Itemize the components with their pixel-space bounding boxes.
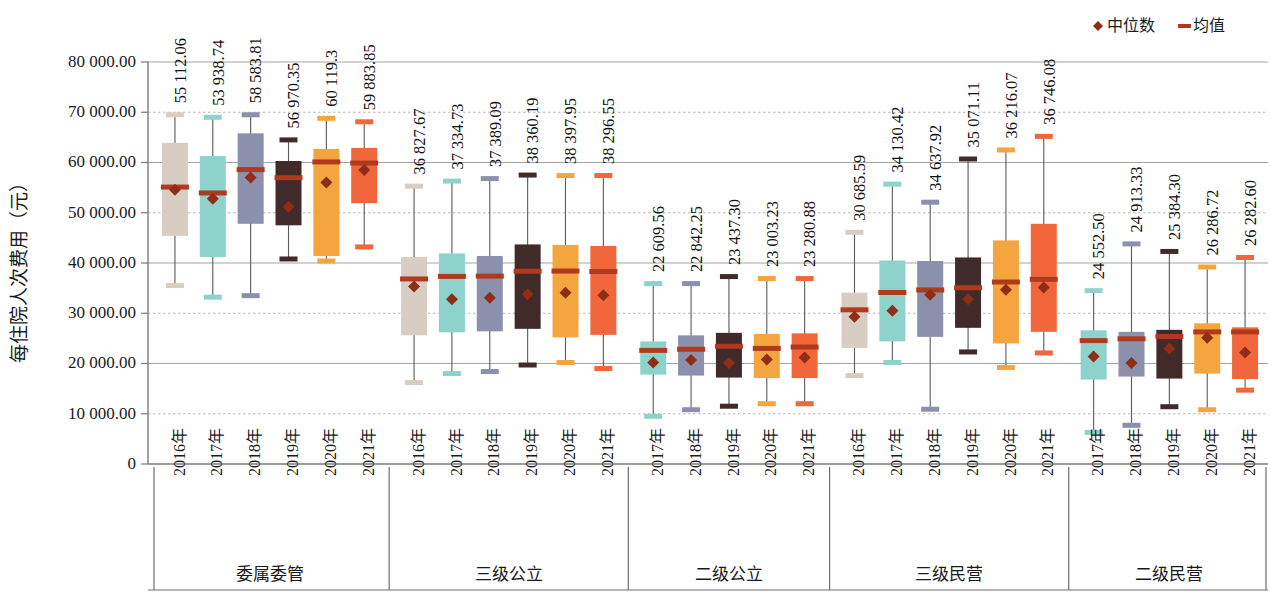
box-rect	[401, 257, 427, 335]
x-tick-label: 2017年	[208, 428, 225, 476]
box-plot-item	[237, 112, 265, 298]
group-label: 二级民营	[1135, 565, 1203, 584]
box-value-label: 38 360.19	[523, 98, 542, 164]
box-plot-item	[199, 115, 227, 300]
whisker-cap-min	[846, 373, 864, 378]
legend-label: 中位数	[1107, 17, 1155, 34]
whisker-cap-min	[1160, 404, 1178, 409]
box-rect	[955, 257, 981, 327]
box-value-label: 37 389.09	[486, 101, 505, 167]
x-tick-label: 2020年	[1002, 428, 1019, 476]
x-tick-label: 2018年	[485, 428, 502, 476]
legend-diamond-marker-icon	[1093, 21, 1103, 31]
x-tick-label: 2016年	[410, 428, 427, 476]
y-axis-title-text: 每住院人次费用（元）	[9, 173, 30, 363]
whisker-cap-min	[959, 349, 977, 354]
x-tick-label: 2018年	[687, 428, 704, 476]
y-tick-label: 70 000.00	[68, 102, 136, 121]
box-rect	[200, 156, 226, 257]
x-tick-label: 2017年	[888, 428, 905, 476]
whisker-cap-min	[519, 363, 537, 368]
whisker-cap-max	[405, 184, 423, 189]
box-value-label: 60 119.3	[322, 50, 341, 107]
box-value-label: 37 334.73	[448, 104, 467, 170]
whisker-cap-min	[682, 407, 700, 412]
whisker-cap-max	[921, 200, 939, 205]
y-tick-label: 30 000.00	[68, 303, 136, 322]
box-value-label: 36 746.08	[1040, 59, 1059, 125]
legend-label: 均值	[1193, 17, 1225, 34]
x-tick-label: 2021年	[800, 428, 817, 476]
box-plot-item	[1118, 241, 1146, 427]
x-tick-label: 2018年	[1127, 428, 1144, 476]
whisker-cap-max	[557, 173, 575, 178]
whisker-cap-min	[1035, 350, 1053, 355]
box-rect	[879, 260, 905, 341]
whisker-cap-min	[443, 371, 461, 376]
box-plot-item	[350, 119, 378, 249]
group-label: 三级公立	[475, 565, 543, 584]
y-axis-title: 每住院人次费用（元）	[9, 173, 30, 363]
x-tick-label: 2017年	[1089, 428, 1106, 476]
box-value-label: 30 685.59	[850, 155, 869, 221]
box-plot-item	[1231, 255, 1259, 393]
box-value-label: 23 437.30	[725, 199, 744, 265]
whisker-cap-max	[355, 119, 373, 124]
whisker-cap-min	[883, 360, 901, 365]
whisker-cap-max	[1035, 134, 1053, 139]
whisker-cap-min	[166, 283, 184, 288]
box-rect	[276, 161, 302, 225]
box-plot-item	[476, 176, 504, 374]
x-tick-label: 2018年	[246, 428, 263, 476]
whisker-cap-min	[644, 414, 662, 419]
box-value-label: 22 609.56	[649, 206, 668, 272]
whisker-cap-min	[481, 369, 499, 374]
whisker-cap-max	[758, 276, 776, 281]
box-plot-item	[954, 156, 982, 354]
whisker-cap-max	[883, 182, 901, 187]
x-tick-label: 2020年	[322, 428, 339, 476]
x-tick-label: 2021年	[599, 428, 616, 476]
box-value-label: 26 286.72	[1203, 190, 1222, 256]
box-value-label: 38 296.55	[599, 98, 618, 164]
x-tick-label: 2017年	[649, 428, 666, 476]
box-plot-item	[677, 281, 705, 412]
whisker-cap-max	[1236, 255, 1254, 260]
whisker-cap-min	[1123, 423, 1141, 428]
whisker-cap-min	[557, 360, 575, 365]
box-value-label: 36 216.07	[1002, 72, 1021, 138]
box-plot-item	[878, 182, 906, 365]
group-labels: 委属委管三级公立二级公立三级民营二级民营	[148, 467, 1268, 590]
whisker-cap-max	[594, 173, 612, 178]
whisker-cap-max	[1160, 249, 1178, 254]
whisker-cap-min	[720, 404, 738, 409]
y-tick-label: 20 000.00	[68, 353, 136, 372]
whisker-cap-min	[1198, 407, 1216, 412]
box-value-label: 38 397.95	[561, 98, 580, 164]
box-plot-item	[552, 173, 580, 365]
y-tick-label: 60 000.00	[68, 152, 136, 171]
x-tick-label: 2021年	[1241, 428, 1258, 476]
x-tick-label: 2021年	[360, 428, 377, 476]
whisker-cap-min	[758, 401, 776, 406]
box-plot-item	[715, 274, 743, 409]
x-tick-label: 2019年	[725, 428, 742, 476]
box-plot-item	[275, 137, 303, 261]
whisker-cap-max	[166, 112, 184, 117]
box-value-label: 55 112.06	[171, 38, 190, 103]
box-value-label: 53 938.74	[209, 40, 228, 106]
box-value-label: 24 552.50	[1089, 213, 1108, 279]
box-value-label: 36 827.67	[410, 109, 429, 175]
whisker-cap-max	[280, 137, 298, 142]
chart-canvas: 中位数均值 010 000.0020 000.0030 000.0040 000…	[0, 0, 1271, 598]
group-label: 委属委管	[236, 565, 304, 584]
whisker-cap-min	[280, 256, 298, 261]
box-plot-item	[1030, 134, 1058, 356]
x-tick-label: 2019年	[284, 428, 301, 476]
box-plot-item	[161, 112, 189, 288]
legend-dash-marker-icon	[1178, 24, 1191, 28]
box-value-label: 34 637.92	[926, 125, 945, 191]
box-plot-item	[312, 116, 340, 264]
whisker-cap-max	[1123, 241, 1141, 246]
box-plot-item	[400, 184, 428, 385]
